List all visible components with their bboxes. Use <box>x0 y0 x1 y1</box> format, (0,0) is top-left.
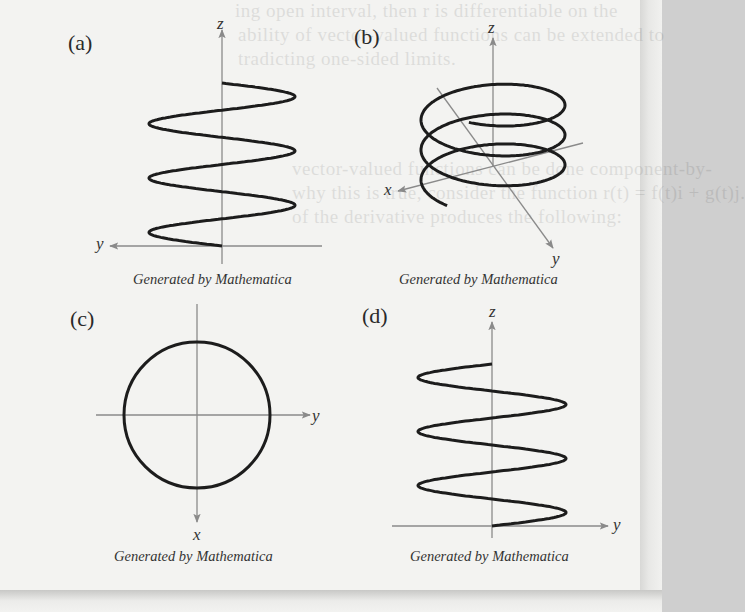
y-axis-b <box>437 88 553 248</box>
